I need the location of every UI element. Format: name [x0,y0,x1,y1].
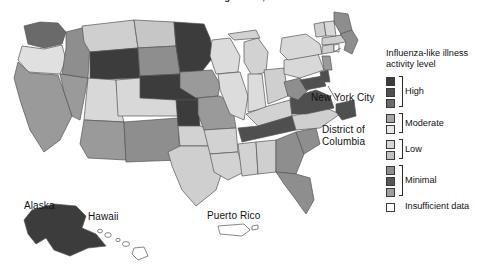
legend-swatch[interactable] [386,188,395,197]
state-montana[interactable] [82,20,138,52]
legend-swatch[interactable] [386,99,395,108]
legend-swatch[interactable] [386,77,395,86]
callout-district-of-columbia[interactable] [336,100,356,120]
legend-swatch-row[interactable] [386,165,395,176]
legend-group-label: Insufficient data [405,201,469,211]
legend-swatch-row[interactable] [386,176,395,187]
legend-swatch-row[interactable] [386,113,395,124]
us-choropleth-map: Alaska Hawaii Puerto Rico [0,4,372,262]
state-south-dakota[interactable] [138,46,180,76]
inset-puerto-rico-islet[interactable] [252,225,258,230]
legend-swatch-row[interactable] [386,187,395,198]
state-wisconsin[interactable] [210,38,240,74]
legend-swatch-row[interactable] [386,76,395,87]
legend-group[interactable]: Moderate [399,113,444,133]
legend-bracket [399,165,403,196]
legend-swatch-row[interactable] [386,98,395,109]
legend-swatch[interactable] [386,114,395,123]
legend-group[interactable]: Minimal [399,165,437,196]
legend-group-label: Minimal [405,175,437,185]
state-delaware[interactable] [320,70,330,82]
state-michigan-upper[interactable] [228,30,260,40]
legend-swatch[interactable] [386,140,395,149]
legend-swatch-row[interactable] [386,124,395,135]
state-north-dakota[interactable] [134,20,176,48]
legend-bracket [399,76,403,107]
state-connecticut[interactable] [322,44,334,54]
state-kansas[interactable] [176,100,200,126]
legend-title-line2: activity level [386,59,486,70]
state-arkansas[interactable] [204,128,238,154]
legend-bracket [399,139,403,159]
state-wyoming[interactable] [90,48,140,80]
legend-swatch-list: HighModerateLowMinimalInsufficient data [386,76,490,217]
legend-group[interactable]: Insufficient data [399,202,469,211]
label-district-of-columbia-line2: Columbia [322,136,365,147]
map-svg [0,4,372,262]
legend-swatch-row[interactable] [386,150,395,161]
state-florida[interactable] [276,172,314,214]
legend-group-label: Low [405,144,422,154]
legend-swatch[interactable] [386,203,395,212]
legend-swatch[interactable] [386,88,395,97]
figure-title: 2014-15 Influenza Season Week 5 ending J… [46,0,376,2]
state-arizona[interactable] [80,120,126,160]
label-alaska: Alaska [24,200,55,211]
state-alabama[interactable] [256,140,276,174]
legend-title-line1: Influenza-like illness [386,48,486,59]
label-district-of-columbia-line1: District of [322,124,365,135]
legend-group-label: High [405,86,424,96]
state-new-hampshire[interactable] [324,21,336,36]
inset-puerto-rico[interactable] [218,224,250,236]
legend-swatch[interactable] [386,125,395,134]
state-washington[interactable] [24,22,66,48]
label-puerto-rico: Puerto Rico [207,210,260,221]
legend-swatch-row[interactable] [386,139,395,150]
legend-bracket [399,113,403,133]
legend-group-label: Moderate [405,118,444,128]
state-indiana[interactable] [248,74,266,112]
legend-swatch[interactable] [386,151,395,160]
figure-title-text: 2014-15 Influenza Season Week 5 ending J… [46,0,376,2]
legend-group[interactable]: Low [399,139,422,159]
flu-activity-map-figure: 2014-15 Influenza Season Week 5 ending J… [0,0,490,271]
legend-swatch-row[interactable] [386,87,395,98]
state-new-jersey[interactable] [322,56,332,70]
legend-swatch[interactable] [386,166,395,175]
state-minnesota[interactable] [174,22,214,74]
label-new-york-city: New York City [311,92,375,103]
legend-swatch[interactable] [386,177,395,186]
legend-group[interactable]: High [399,76,424,107]
label-hawaii: Hawaii [88,211,119,222]
legend-title: Influenza-like illness activity level [386,48,486,71]
legend-swatch-row[interactable] [386,202,395,213]
map-legend: Influenza-like illness activity level Hi… [386,48,490,217]
